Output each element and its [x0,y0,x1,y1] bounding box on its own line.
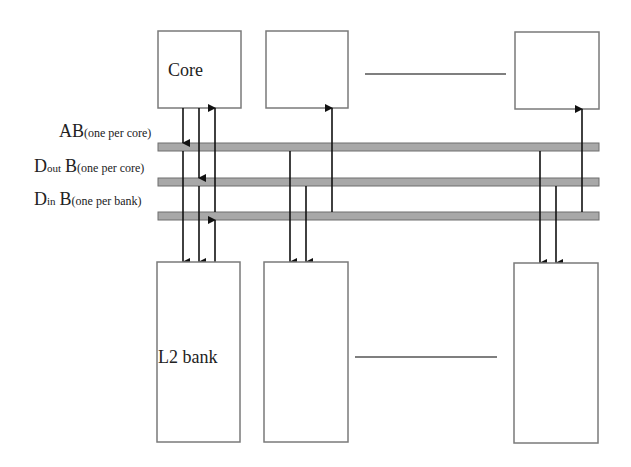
bus-din [158,212,599,220]
diagram-canvas [0,0,631,467]
bus-name-dout-b: B [65,156,77,176]
bus-name-dout-d: D [34,156,47,176]
bus-note-dout: (one per core) [77,161,144,175]
bus-ab [158,143,599,151]
bus-name-din-b: B [60,189,72,209]
bus-note-din: (one per bank) [72,194,142,208]
bus-name-din-sub: in [47,195,56,207]
bus-name-din-d: D [34,189,47,209]
bus-label-din: Din B(one per bank) [34,190,142,208]
core-label: Core [168,61,203,79]
core-box-2 [266,31,348,108]
bus-label-ab: AB(one per core) [59,122,151,140]
core-box-n [515,32,599,109]
bus-label-dout: Dout B(one per core) [34,157,144,175]
bank-box-2 [264,262,348,442]
bus-name-dout-sub: out [47,162,61,174]
l2-bank-label: L2 bank [158,348,217,366]
bus-dout [158,178,599,186]
bank-box-n [514,263,598,443]
bus-name-ab: AB [59,121,84,141]
bus-note-ab: (one per core) [84,126,151,140]
